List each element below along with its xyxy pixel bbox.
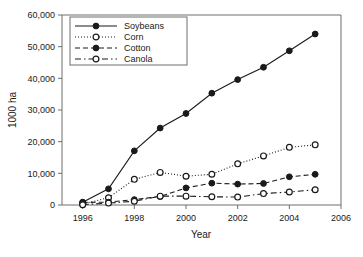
legend-label-canola: Canola bbox=[124, 54, 153, 64]
legend-marker-cotton bbox=[93, 45, 99, 51]
data-point-cotton bbox=[235, 181, 241, 187]
data-point-soybeans bbox=[235, 77, 241, 83]
y-tick-label: 50,000 bbox=[27, 42, 55, 52]
data-point-corn bbox=[131, 176, 137, 182]
data-point-soybeans bbox=[209, 90, 215, 96]
data-point-soybeans bbox=[106, 186, 112, 192]
data-point-canola bbox=[80, 202, 86, 208]
x-tick-label: 1998 bbox=[124, 213, 144, 223]
series-line-cotton bbox=[83, 174, 316, 202]
data-point-corn bbox=[209, 171, 215, 177]
y-tick-label: 30,000 bbox=[27, 105, 55, 115]
y-axis-ticks: 010,00020,00030,00040,00050,00060,000 bbox=[27, 10, 62, 210]
legend-label-cotton: Cotton bbox=[124, 43, 151, 53]
data-point-soybeans bbox=[157, 125, 163, 131]
data-point-canola bbox=[209, 194, 215, 200]
data-point-corn bbox=[157, 169, 163, 175]
data-point-cotton bbox=[261, 181, 267, 187]
legend-marker-soybeans bbox=[93, 23, 99, 29]
series-line-canola bbox=[83, 190, 316, 205]
x-axis-ticks: 199619982000200220042006 bbox=[73, 205, 351, 223]
data-point-canola bbox=[157, 193, 163, 199]
y-tick-label: 60,000 bbox=[27, 10, 55, 20]
series-line-corn bbox=[83, 145, 316, 204]
legend-marker-canola bbox=[93, 56, 99, 62]
x-tick-label: 2000 bbox=[176, 213, 196, 223]
legend-label-soybeans: Soybeans bbox=[124, 21, 165, 31]
legend-marker-corn bbox=[93, 34, 99, 40]
data-point-cotton bbox=[183, 185, 189, 191]
data-point-soybeans bbox=[286, 48, 292, 54]
x-tick-label: 2006 bbox=[331, 213, 351, 223]
data-point-canola bbox=[261, 191, 267, 197]
x-tick-label: 2004 bbox=[279, 213, 299, 223]
data-point-corn bbox=[235, 161, 241, 167]
data-point-soybeans bbox=[131, 148, 137, 154]
x-tick-label: 1996 bbox=[73, 213, 93, 223]
data-point-corn bbox=[183, 173, 189, 179]
x-tick-label: 2002 bbox=[228, 213, 248, 223]
chart-legend: SoybeansCornCottonCanola bbox=[70, 17, 187, 65]
y-tick-label: 0 bbox=[50, 200, 55, 210]
data-point-soybeans bbox=[183, 111, 189, 117]
line-chart: 010,00020,00030,00040,00050,00060,000 19… bbox=[0, 0, 363, 257]
x-axis-label: Year bbox=[191, 229, 212, 240]
data-point-cotton bbox=[286, 174, 292, 180]
y-tick-label: 40,000 bbox=[27, 74, 55, 84]
data-point-canola bbox=[131, 198, 137, 204]
data-point-cotton bbox=[312, 171, 318, 177]
data-point-canola bbox=[235, 194, 241, 200]
data-point-canola bbox=[312, 187, 318, 193]
data-point-soybeans bbox=[312, 31, 318, 37]
data-point-canola bbox=[286, 189, 292, 195]
chart-container: 010,00020,00030,00040,00050,00060,000 19… bbox=[0, 0, 363, 257]
y-tick-label: 10,000 bbox=[27, 169, 55, 179]
data-point-canola bbox=[106, 200, 112, 206]
data-point-soybeans bbox=[261, 64, 267, 70]
y-tick-label: 20,000 bbox=[27, 137, 55, 147]
data-point-corn bbox=[286, 144, 292, 150]
data-point-corn bbox=[261, 153, 267, 159]
data-point-corn bbox=[312, 142, 318, 148]
data-point-cotton bbox=[209, 180, 215, 186]
y-axis-label: 1000 ha bbox=[7, 91, 18, 128]
data-point-canola bbox=[183, 193, 189, 199]
legend-label-corn: Corn bbox=[124, 32, 144, 42]
